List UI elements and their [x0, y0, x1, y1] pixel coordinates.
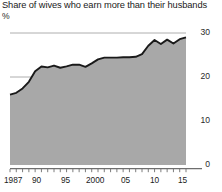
area-fill [10, 37, 186, 165]
x-axis-tickmarks [10, 169, 186, 172]
y-axis-labels: 30 20 10 0 [188, 20, 222, 170]
x-tick-label-1987: 1987 [4, 176, 22, 185]
x-axis: 1987 90 95 2000 05 10 15 [0, 168, 222, 192]
chart-title: Share of wives who earn more than their … [2, 0, 220, 11]
x-tick-label-2000: 2000 [86, 176, 104, 185]
y-axis-unit-label: % [2, 11, 10, 21]
chart-svg [10, 20, 186, 166]
plot-area [10, 20, 186, 166]
x-tick-label-1995: 95 [61, 176, 70, 185]
chart-container: Share of wives who earn more than their … [0, 0, 222, 192]
y-tick-label-30: 30 [188, 28, 210, 37]
x-tick-label-1990: 90 [32, 176, 41, 185]
y-tick-label-20: 20 [188, 72, 210, 81]
x-tick-label-2010: 10 [150, 176, 159, 185]
x-tick-label-2005: 05 [121, 176, 130, 185]
x-tick-label-2015: 15 [178, 176, 187, 185]
y-tick-label-10: 10 [188, 116, 210, 125]
